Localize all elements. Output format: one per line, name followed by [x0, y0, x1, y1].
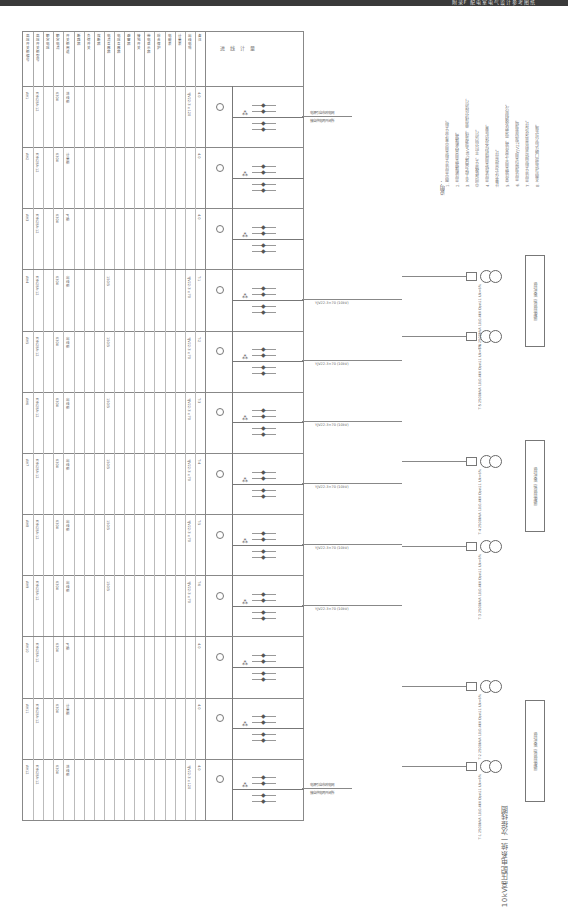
cell-remark: 4.0 [197, 704, 201, 710]
grid-line [94, 392, 95, 453]
cabinet-row: AH11KYN28A-12630A计量柜4.0◆◆◆◆⁂ [23, 698, 303, 760]
cabinet-circuit: ◆◆◆◆⁂ [205, 86, 304, 147]
header-bar: 附录F 配电室电气设计参考图纸 [0, 0, 576, 6]
cabinet-circuit: ◆◆◆◆⁂ [205, 392, 304, 453]
transformer-secondary-icon [489, 540, 502, 553]
current-transformer-icon: ⁂ [242, 598, 248, 605]
grid-line [165, 514, 166, 575]
grid-line [33, 86, 34, 147]
grid-line [63, 331, 64, 392]
note-item: 5. 变压器采用干式变压器，带温控及强制风冷。 [505, 102, 511, 187]
header-label: 带电显示器 [147, 34, 152, 54]
grid-line [74, 637, 75, 698]
grid-line [144, 208, 145, 269]
lv-panel-label: 低压开关柜 详见低压系统图 [533, 732, 538, 769]
device-icon: ◆ [261, 492, 266, 499]
cell-rating: 630A [55, 398, 59, 407]
cell-cable: YJV22-3×70 [187, 581, 191, 603]
feeder-line [232, 361, 304, 362]
current-transformer-icon: ⁂ [242, 414, 248, 421]
device-icon: ◆ [261, 614, 266, 621]
grid-line [124, 392, 125, 453]
cell-use: 进线柜 [65, 92, 70, 104]
transformer-label: T-2 2500kVA 10/0.4kV Dyn11 Uk=6% [478, 694, 482, 759]
grid-line [74, 453, 75, 514]
cell-model: KYN28A-12 [35, 643, 39, 662]
grid-line [134, 270, 135, 331]
grid-line [165, 331, 166, 392]
outgoing-cable-label: YJV22-3×70 (10kV) [315, 607, 349, 611]
grid-line [94, 575, 95, 636]
cell-ct: 150/5 [106, 459, 110, 469]
grid-line [53, 392, 54, 453]
meter-icon [216, 347, 224, 355]
grid-line [185, 637, 186, 698]
grid-line [165, 453, 166, 514]
grid-line [134, 637, 135, 698]
feeder-line [232, 300, 304, 301]
cell-ct: 150/5 [106, 398, 110, 408]
grid-line [53, 147, 54, 208]
lv-panel-label: 低压开关柜 详见低压系统图 [533, 282, 538, 319]
grid-line [94, 759, 95, 820]
transformer-secondary-icon [489, 680, 502, 693]
outgoing-cable [302, 421, 402, 422]
grid-line [84, 270, 85, 331]
feeder-line [232, 545, 304, 546]
grid-line [33, 270, 34, 331]
cell-use: 出线柜 [65, 459, 70, 471]
cabinet-table: AH12KYN28A-12630A进线柜YJV22-3×1204.0 [23, 759, 205, 820]
device-icon: ◆ [261, 247, 266, 254]
cell-model: KYN28A-12 [35, 520, 39, 539]
cell-use: 出线柜 [65, 581, 70, 593]
cell-model: KYN28A-12 [35, 398, 39, 417]
grid-line [124, 637, 125, 698]
cabinet-table: AH9KYN28A-12630A出线柜150/5YJV22-3×70T-6 [23, 575, 205, 636]
cell-ct: 150/5 [106, 581, 110, 591]
cell-rating: 630A [55, 520, 59, 529]
cell-model: KYN28A-12 [35, 92, 39, 111]
grid-line [114, 331, 115, 392]
cabinet-circuit: ◆◆◆◆⁂ [205, 759, 304, 820]
grid-line [124, 147, 125, 208]
grid-line [185, 392, 186, 453]
cabinet-circuit: ◆◆◆◆⁂ [205, 208, 304, 269]
grid-line [195, 86, 196, 147]
meter-icon [216, 714, 224, 722]
note-item: 1. 图中高压开关柜采用中置式开关柜。 [445, 118, 451, 187]
cabinet-table: AH8KYN28A-12630A出线柜150/5YJV22-3×70T-5 [23, 514, 205, 575]
hv-cable [402, 276, 466, 277]
load-switch-icon [466, 542, 477, 551]
meter-icon [216, 531, 224, 539]
grid-line [185, 575, 186, 636]
grid-line [74, 147, 75, 208]
device-icon: ◆ [261, 168, 266, 175]
grid-line [104, 86, 105, 147]
grid-line [175, 575, 176, 636]
cell-rating: 630A [55, 214, 59, 223]
grid-line [43, 392, 44, 453]
cell-model: KYN28A-12 [35, 704, 39, 723]
grid-line [114, 270, 115, 331]
grid-line [175, 270, 176, 331]
device-icon: ◆ [261, 290, 266, 297]
grid-line [94, 147, 95, 208]
grid-line [33, 208, 34, 269]
grid-line [124, 575, 125, 636]
grid-line [84, 453, 85, 514]
device-icon: ◆ [261, 718, 266, 725]
grid-line [175, 208, 176, 269]
cell-cable: YJV22-3×120 [187, 92, 191, 116]
outgoing-cable-label: YJV22-3×70 (10kV) [315, 362, 349, 366]
header-label: 避雷器 [127, 34, 132, 46]
hv-cable [402, 766, 466, 767]
grid-line [124, 270, 125, 331]
grid-line [43, 86, 44, 147]
grid-line [114, 147, 115, 208]
grid-line [33, 637, 34, 698]
grid-line [165, 575, 166, 636]
grid-line [74, 514, 75, 575]
grid-line [114, 637, 115, 698]
cell-remark: 4.0 [197, 153, 201, 159]
outgoing-cable-label: YJV22-3×70 (10kV) [315, 423, 349, 427]
